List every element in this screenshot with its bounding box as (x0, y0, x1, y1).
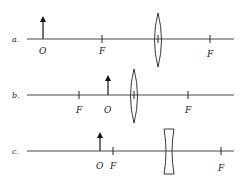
focal-label: F (184, 105, 192, 115)
row-label: b. (12, 91, 20, 100)
row-label: c. (12, 147, 19, 156)
focal-label: F (217, 163, 225, 173)
row-c: c. O F F (12, 129, 234, 174)
arrowhead-icon (105, 75, 111, 81)
row-a: a. O F F (12, 13, 234, 67)
arrowhead-icon (40, 16, 46, 22)
lens-diagram: a. O F F b. F O F c. O F F (0, 0, 245, 185)
concave-lens-icon (164, 129, 174, 174)
object-label: O (104, 105, 112, 115)
arrowhead-icon (97, 132, 103, 138)
focal-label: F (98, 46, 106, 56)
focal-label: F (109, 161, 117, 171)
focal-label: F (206, 49, 214, 59)
focal-label: F (75, 105, 83, 115)
object-label: O (96, 161, 104, 171)
row-label: a. (12, 35, 19, 44)
object-label: O (39, 46, 47, 56)
row-b: b. F O F (12, 69, 234, 123)
